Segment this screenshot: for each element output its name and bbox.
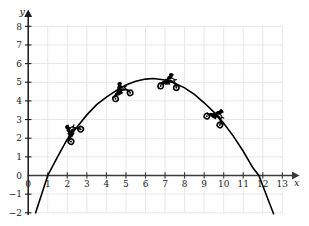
x-tick-label: 4: [104, 179, 110, 189]
y-tick-label: 6: [16, 59, 22, 69]
y-tick-label: 4: [16, 96, 22, 106]
motorcycle-parabola-graph: 012345678910111213 −2−1012345678 x y: [0, 0, 309, 226]
x-tick-label: 8: [182, 179, 188, 189]
y-tick-label: 2: [16, 133, 22, 143]
parabola-curve: [36, 79, 274, 214]
y-tick-label: −1: [9, 189, 22, 199]
x-tick-label: 7: [162, 179, 168, 189]
y-tick-label: 5: [16, 77, 22, 87]
motorcycle-icon: [157, 72, 181, 92]
x-axis-tick-labels: 012345678910111213: [25, 179, 288, 189]
y-tick-label: 1: [16, 152, 22, 162]
x-tick-label: 5: [123, 179, 129, 189]
x-tick-label: 2: [64, 179, 70, 189]
x-tick-label: 10: [218, 179, 230, 189]
x-tick-label: 3: [84, 179, 90, 189]
x-tick-label: 0: [25, 179, 31, 189]
y-tick-label: 7: [16, 40, 22, 50]
y-tick-label: 0: [16, 171, 22, 181]
x-tick-label: 13: [277, 179, 289, 189]
motorcycle-silhouette: [157, 72, 181, 92]
y-axis-tick-labels: −2−1012345678: [9, 22, 23, 219]
x-tick-label: 9: [201, 179, 207, 189]
y-tick-label: 8: [16, 22, 22, 32]
plot-canvas: 012345678910111213 −2−1012345678 x y: [0, 0, 309, 226]
x-tick-label: 6: [143, 179, 149, 189]
y-tick-label: −2: [9, 208, 22, 218]
x-axis-label: x: [294, 177, 300, 188]
y-axis-label: y: [19, 6, 26, 17]
y-tick-label: 3: [16, 115, 22, 125]
motorcycle-markers: [58, 72, 231, 147]
x-tick-label: 11: [238, 179, 249, 189]
y-axis-arrow-icon: [24, 10, 32, 18]
